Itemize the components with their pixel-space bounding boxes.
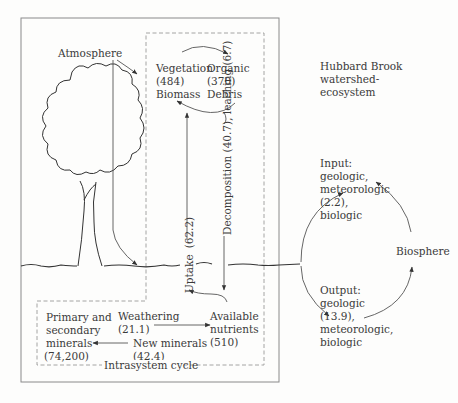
uptake-label: Uptake(62.2) xyxy=(183,217,195,293)
nutrient-cycle-diagram: Atmosphere Vegetation (484) Biomass Orga… xyxy=(0,0,458,403)
weathering-label: Weathering (21.1) xyxy=(118,310,183,335)
tree-illustration xyxy=(42,63,144,266)
available-nutrients-label: Available nutrients (510) xyxy=(209,310,262,348)
intrasystem-cycle-label: Intrasystem cycle xyxy=(104,359,198,371)
input-label: Input: geologic, meteorologic (2.2), bio… xyxy=(320,157,393,221)
primary-minerals-label: Primary and secondary minerals (74,200) xyxy=(44,311,115,362)
output-arc-right xyxy=(364,267,412,318)
biosphere-label: Biosphere xyxy=(396,245,450,257)
title-label: Hubbard Brook watershed- ecosystem xyxy=(320,60,406,98)
decomposition-leaching-label: Decomposition (40.7), leaching (6.7) xyxy=(221,41,233,235)
ground-line xyxy=(21,263,300,267)
output-label: Output: geologic (13.9), meteorologic, b… xyxy=(320,284,397,348)
atmosphere-label: Atmosphere xyxy=(57,47,122,59)
atmosphere-input-line xyxy=(113,60,137,265)
